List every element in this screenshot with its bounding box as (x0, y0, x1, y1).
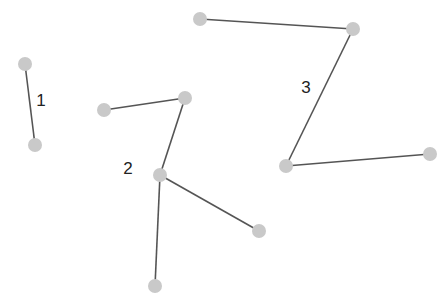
graph-edge (155, 175, 160, 286)
component-label: 3 (301, 78, 310, 97)
graph-node (148, 279, 162, 293)
graph-edge (25, 64, 35, 145)
graph-canvas: 123 (0, 0, 445, 304)
graph-edge (160, 175, 259, 231)
graph-edge (160, 98, 185, 175)
graph-node (18, 57, 32, 71)
graph-node (423, 147, 437, 161)
labels-layer: 123 (36, 78, 310, 178)
graph-node (153, 168, 167, 182)
graph-node (178, 91, 192, 105)
graph-node (346, 22, 360, 36)
graph-edge (286, 29, 353, 166)
graph-edge (286, 154, 430, 166)
graph-node (28, 138, 42, 152)
graph-node (193, 12, 207, 26)
graph-node (97, 103, 111, 117)
graph-node (252, 224, 266, 238)
nodes-layer (18, 12, 437, 293)
edges-layer (25, 19, 430, 286)
component-label: 1 (36, 91, 45, 110)
graph-node (279, 159, 293, 173)
graph-edge (104, 98, 185, 110)
graph-edge (200, 19, 353, 29)
component-label: 2 (123, 159, 132, 178)
